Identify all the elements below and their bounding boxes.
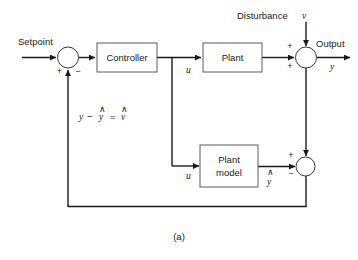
block-plant-label: Plant	[222, 52, 244, 63]
block-plant-model-label-line2: model	[216, 167, 242, 178]
error-expr-equals: =	[110, 111, 116, 122]
label-control-signal-lower: u	[186, 171, 191, 181]
error-expr-minus: −	[87, 111, 93, 122]
label-control-signal-upper: u	[186, 65, 191, 75]
summing-junction-model-error[interactable]	[296, 157, 315, 176]
label-disturbance: Disturbance	[237, 10, 288, 21]
label-setpoint: Setpoint	[18, 36, 53, 47]
model-output-hat-icon: ∧	[267, 167, 274, 177]
setpoint-junction-sign-right: −	[75, 66, 80, 76]
model-error-junction-sign-bottom: −	[288, 168, 293, 178]
output-junction-sign-top: +	[287, 41, 292, 51]
label-output-variable: y	[329, 62, 335, 72]
error-expr-y: y	[78, 112, 84, 122]
summing-junction-setpoint[interactable]	[58, 47, 79, 68]
figure-canvas: Controller Plant Plant model + − + + + −…	[0, 0, 358, 260]
block-plant-model-label-line1: Plant	[218, 154, 240, 165]
label-output: Output	[316, 38, 345, 49]
output-junction-sign-bottom: +	[287, 61, 292, 71]
setpoint-junction-sign-left: +	[57, 66, 62, 76]
summing-junction-output[interactable]	[296, 47, 317, 68]
figure-caption: (a)	[173, 231, 185, 242]
block-diagram-svg: Controller Plant Plant model + − + + + −…	[0, 0, 358, 260]
block-controller-label: Controller	[106, 52, 147, 63]
model-error-junction-sign-top: +	[288, 150, 293, 160]
label-disturbance-variable: v	[302, 11, 307, 21]
label-model-output-variable: y	[266, 177, 272, 187]
error-expr-yhat: y	[98, 112, 104, 122]
